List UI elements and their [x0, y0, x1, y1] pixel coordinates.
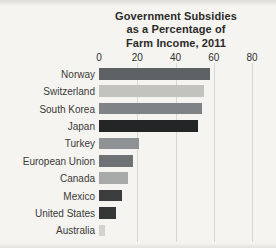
bar-south-korea: [99, 103, 202, 115]
bar-chart-figure: Government Subsidiesas a Percentage ofFa…: [0, 0, 276, 248]
bar-canada: [99, 172, 128, 184]
gridline: [252, 63, 253, 242]
x-axis-tick-label: 40: [170, 52, 181, 63]
x-axis-tick-label: 20: [132, 52, 143, 63]
category-label: Mexico: [63, 190, 95, 201]
gridline: [214, 63, 215, 242]
bar-mexico: [99, 190, 122, 202]
bar-switzerland: [99, 85, 204, 97]
x-axis-tick-label: 60: [208, 52, 219, 63]
category-label: Canada: [60, 173, 95, 184]
chart-title: Government Subsidiesas a Percentage ofFa…: [96, 10, 256, 50]
bar-japan: [99, 120, 198, 132]
bar-united-states: [99, 207, 116, 219]
plot-area: [99, 63, 253, 242]
bar-australia: [99, 225, 105, 237]
category-label: South Korea: [39, 103, 95, 114]
chart-title-line: Government Subsidies: [96, 10, 256, 23]
page-edge-shadow-top: [0, 0, 276, 6]
x-axis-tick-label: 80: [246, 52, 257, 63]
chart-title-line: Farm Income, 2011: [96, 37, 256, 50]
category-label: European Union: [23, 155, 95, 166]
category-label: Turkey: [65, 138, 95, 149]
bar-european-union: [99, 155, 133, 167]
x-axis-tick-label: 0: [96, 52, 102, 63]
category-labels: NorwaySwitzerlandSouth KoreaJapanTurkeyE…: [0, 63, 95, 242]
category-label: Australia: [56, 225, 95, 236]
bar-turkey: [99, 138, 139, 150]
category-label: Japan: [68, 120, 95, 131]
page-edge-shadow-bottom: [0, 243, 276, 248]
category-label: Switzerland: [43, 86, 95, 97]
category-label: Norway: [61, 68, 95, 79]
bar-norway: [99, 68, 210, 80]
category-label: United States: [35, 207, 95, 218]
chart-title-line: as a Percentage of: [96, 23, 256, 36]
